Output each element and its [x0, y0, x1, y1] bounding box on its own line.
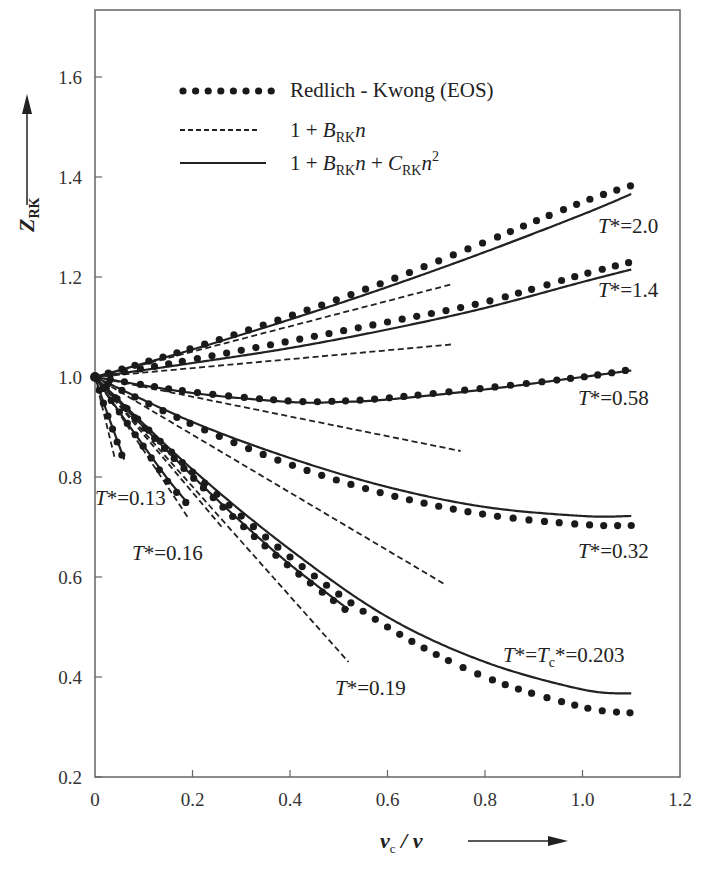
- label-t-2-0: T*=2.0: [598, 214, 658, 238]
- rk-eos-point: [333, 296, 340, 303]
- y-tick-label: 1.2: [58, 267, 82, 288]
- rk-eos-point: [148, 454, 155, 461]
- svg-text:vc / v: vc / v: [380, 828, 423, 856]
- rk-eos-point: [491, 383, 498, 390]
- rk-eos-point: [369, 321, 376, 328]
- rk-eos-point: [489, 676, 496, 683]
- rk-eos-point: [442, 307, 449, 314]
- legend: Redlich - Kwong (EOS) 1 + BRKn 1 + BRKn …: [179, 78, 493, 178]
- virial-bc-line: [95, 377, 188, 503]
- rk-eos-point: [450, 251, 457, 258]
- rk-eos-point: [377, 280, 384, 287]
- rk-eos-point: [599, 266, 606, 273]
- rk-eos-point: [347, 481, 354, 488]
- rk-eos-point: [270, 396, 277, 403]
- x-axis-ticks: 00.20.40.60.81.01.2: [90, 770, 692, 810]
- rk-eos-point: [464, 245, 471, 252]
- rk-eos-point: [328, 398, 335, 405]
- rk-eos-point: [414, 391, 421, 398]
- virial-bc-line: [95, 371, 631, 403]
- rk-eos-point: [335, 591, 342, 598]
- rk-eos-point: [430, 390, 437, 397]
- rk-eos-point: [533, 217, 540, 224]
- rk-eos-point: [558, 277, 565, 284]
- rk-eos-point: [399, 316, 406, 323]
- rk-eos-point: [225, 392, 232, 399]
- rk-eos-point: [494, 513, 501, 520]
- rk-eos-point: [586, 196, 593, 203]
- rk-eos-point: [208, 352, 215, 359]
- rk-eos-point: [515, 289, 522, 296]
- rk-eos-point: [613, 186, 620, 193]
- rk-eos-point: [286, 553, 293, 560]
- rk-eos-point: [333, 476, 340, 483]
- rk-eos-point: [362, 485, 369, 492]
- rk-eos-point: [318, 472, 325, 479]
- rk-eos-point: [406, 269, 413, 276]
- rk-eos-point: [289, 462, 296, 469]
- y-axis-arrow-icon: [22, 94, 32, 114]
- label-t-0-32: T*=0.32: [578, 539, 649, 563]
- rk-eos-point: [600, 522, 607, 529]
- rk-eos-point: [109, 425, 116, 432]
- y-tick-label: 1.0: [58, 367, 82, 388]
- y-tick-label: 1.4: [58, 167, 82, 188]
- rk-eos-point: [546, 212, 553, 219]
- rk-eos-point: [510, 515, 517, 522]
- rk-eos-point: [494, 233, 501, 240]
- x-tick-label: 0.4: [278, 789, 302, 810]
- rk-eos-point: [219, 504, 226, 511]
- x-axis-arrow-icon: [548, 836, 568, 846]
- x-tick-label: 1.0: [571, 789, 595, 810]
- rk-eos-point: [386, 394, 393, 401]
- rk-eos-point: [238, 347, 245, 354]
- rk-eos-point: [307, 579, 314, 586]
- rk-eos-point: [384, 623, 391, 630]
- rk-eos-point: [200, 484, 207, 491]
- rk-eos-point: [151, 435, 158, 442]
- rk-eos-point: [571, 273, 578, 280]
- rk-eos-point: [560, 206, 567, 213]
- rk-eos-point: [586, 521, 593, 528]
- rk-eos-point: [515, 685, 522, 692]
- rk-eos-point: [274, 456, 281, 463]
- rk-eos-point: [413, 313, 420, 320]
- rk-eos-point: [391, 275, 398, 282]
- rk-eos-point: [502, 293, 509, 300]
- rk-eos-point: [420, 644, 427, 651]
- rk-eos-point: [464, 508, 471, 515]
- rk-eos-point: [96, 387, 103, 394]
- rk-eos-point: [474, 670, 481, 677]
- x-tick-label: 0.2: [181, 789, 205, 810]
- rk-eos-point: [573, 201, 580, 208]
- rk-eos-point: [186, 420, 193, 427]
- rk-eos-point: [384, 318, 391, 325]
- rk-eos-point: [325, 330, 332, 337]
- rk-eos-point: [274, 317, 281, 324]
- rk-eos-point: [523, 380, 530, 387]
- rk-eos-point: [180, 465, 187, 472]
- rk-eos-point: [165, 360, 172, 367]
- rk-eos-point: [179, 358, 186, 365]
- rk-eos-point: [420, 263, 427, 270]
- series-t-2-0: [91, 182, 634, 380]
- rk-eos-point: [445, 388, 452, 395]
- rk-eos-point: [584, 705, 591, 712]
- rk-eos-point: [124, 420, 131, 427]
- series-t-0-58: [91, 367, 631, 451]
- rk-eos-point: [121, 368, 128, 375]
- rk-eos-point: [141, 425, 148, 432]
- rk-eos-point: [151, 383, 158, 390]
- rk-eos-point: [323, 582, 330, 589]
- rk-eos-point: [584, 269, 591, 276]
- rk-eos-point: [600, 191, 607, 198]
- rk-eos-point: [251, 533, 258, 540]
- rk-eos-point: [457, 304, 464, 311]
- rk-eos-point: [627, 182, 634, 189]
- rk-eos-point: [209, 391, 216, 398]
- rk-eos-point: [272, 552, 279, 559]
- rk-eos-point: [256, 395, 263, 402]
- rk-eos-point: [400, 393, 407, 400]
- rk-eos-point: [216, 433, 223, 440]
- rk-eos-point: [240, 523, 247, 530]
